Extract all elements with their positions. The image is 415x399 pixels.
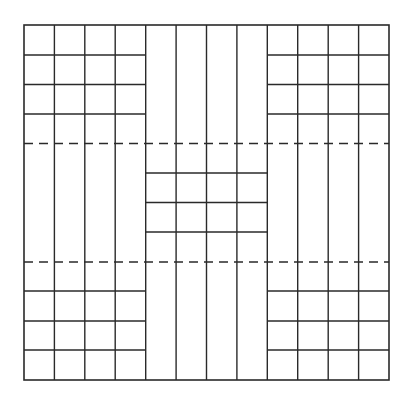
grid-diagram xyxy=(0,0,415,399)
